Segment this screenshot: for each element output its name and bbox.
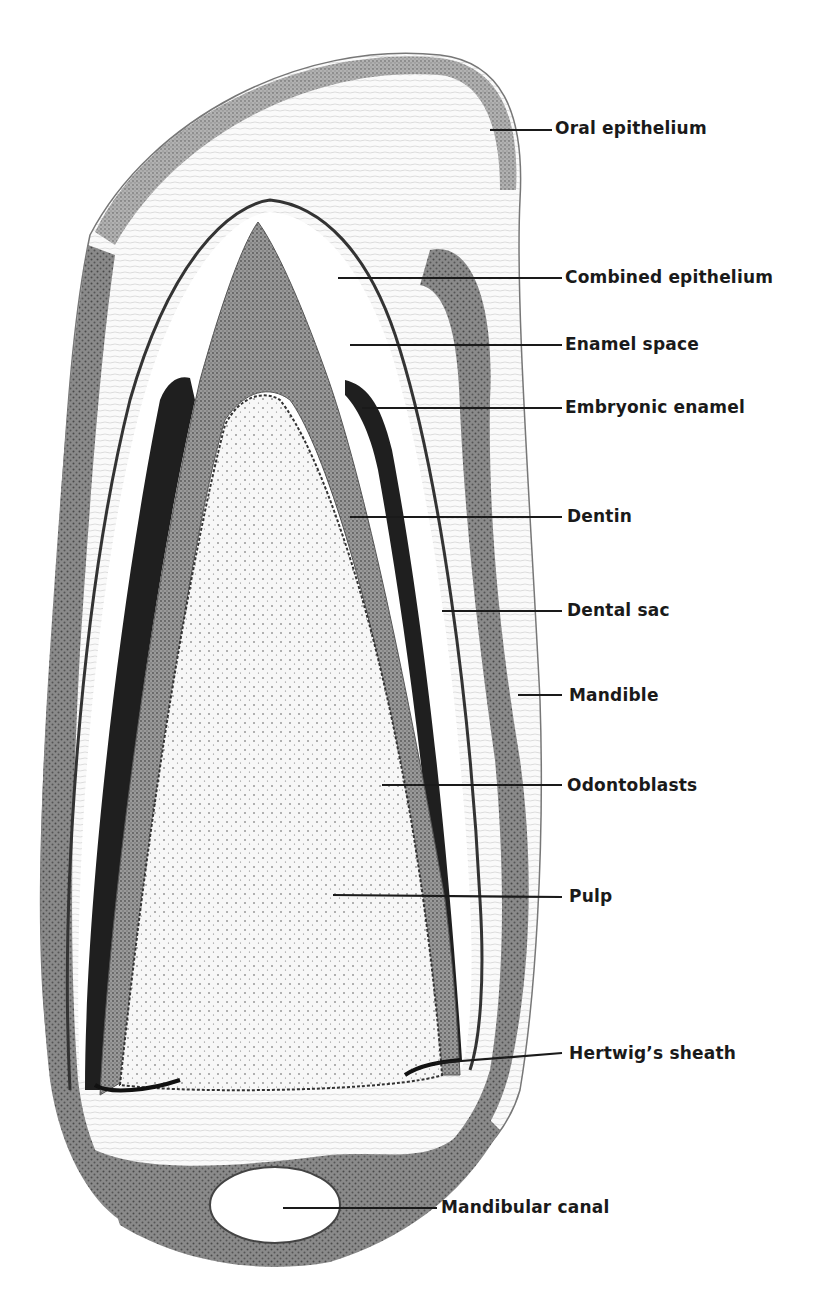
- label-enamel-space: Enamel space: [565, 334, 699, 354]
- tooth-illustration: [0, 0, 818, 1304]
- label-hertwigs-sheath: Hertwig’s sheath: [569, 1043, 736, 1063]
- label-dental-sac: Dental sac: [567, 600, 670, 620]
- label-dentin: Dentin: [567, 506, 632, 526]
- label-oral-epithelium: Oral epithelium: [555, 118, 707, 138]
- tooth-section-diagram: Oral epithelium Combined epithelium Enam…: [0, 0, 818, 1304]
- label-mandibular-canal: Mandibular canal: [441, 1197, 610, 1217]
- label-odontoblasts: Odontoblasts: [567, 775, 697, 795]
- label-combined-epithelium: Combined epithelium: [565, 267, 773, 287]
- label-embryonic-enamel: Embryonic enamel: [565, 397, 745, 417]
- label-pulp: Pulp: [569, 886, 612, 906]
- label-mandible: Mandible: [569, 685, 659, 705]
- mandibular-canal-lumen: [210, 1167, 340, 1243]
